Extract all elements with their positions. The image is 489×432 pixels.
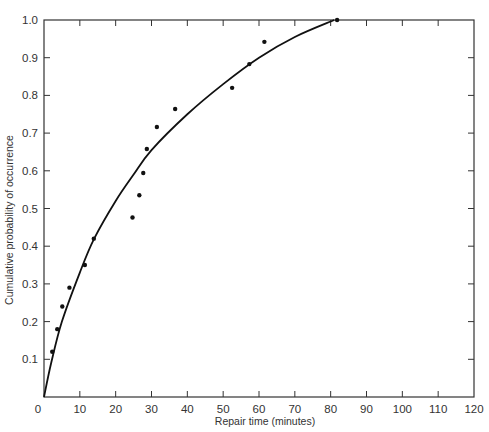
y-tick-label: 0.2 [22, 316, 38, 328]
fitted-curve [44, 20, 334, 397]
data-point [173, 107, 177, 111]
data-point [335, 18, 339, 22]
x-tick-label: 110 [429, 403, 447, 415]
y-tick-label: 0.6 [22, 165, 38, 177]
y-axis-label: Cumulative probability of occurrence [3, 135, 15, 305]
y-tick-label: 1.0 [22, 14, 38, 26]
x-tick-label: 10 [73, 403, 86, 415]
data-point [50, 350, 54, 354]
y-axis-ticks: 0.10.20.30.40.50.60.70.80.91.0 [22, 14, 474, 365]
data-point [130, 215, 134, 219]
y-tick-label: 0.8 [22, 89, 38, 101]
plot-border [44, 20, 474, 397]
x-tick-label: 40 [181, 403, 194, 415]
data-point [141, 171, 145, 175]
data-point [92, 236, 96, 240]
y-tick-label: 0.4 [22, 240, 39, 252]
x-axis-label: Repair time (minutes) [215, 415, 315, 427]
plot-frame [44, 20, 474, 397]
x-tick-label: 20 [109, 403, 122, 415]
fitted-cdf-line [44, 20, 334, 397]
data-point [60, 304, 64, 308]
x-tick-label: 70 [288, 403, 301, 415]
data-point [230, 86, 234, 90]
data-point [262, 40, 266, 44]
y-tick-label: 0.9 [22, 52, 38, 64]
y-tick-label: 0.7 [22, 127, 38, 139]
x-tick-label: 120 [464, 403, 483, 415]
x-axis-ticks: 0102030405060708090100110120 [35, 20, 484, 415]
data-point [247, 62, 251, 66]
data-point [55, 327, 59, 331]
x-tick-label: 80 [324, 403, 337, 415]
x-tick-label: 50 [217, 403, 230, 415]
x-tick-label: 30 [145, 403, 158, 415]
x-tick-label: 100 [393, 403, 412, 415]
data-point [83, 263, 87, 267]
data-point [67, 285, 71, 289]
x-tick-label: 90 [360, 403, 373, 415]
data-point [145, 147, 149, 151]
cumulative-probability-chart: 0102030405060708090100110120 0.10.20.30.… [0, 0, 489, 432]
data-point [155, 125, 159, 129]
data-points [50, 18, 339, 354]
y-tick-label: 0.1 [22, 353, 38, 365]
data-point [137, 193, 141, 197]
y-tick-label: 0.5 [22, 203, 38, 215]
x-tick-label: 60 [253, 403, 266, 415]
x-tick-label: 0 [35, 403, 41, 415]
y-tick-label: 0.3 [22, 278, 38, 290]
